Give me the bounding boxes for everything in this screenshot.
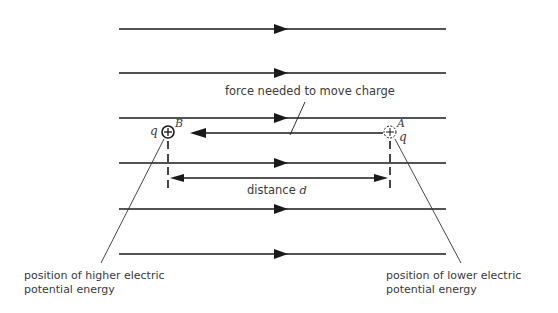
electric-field-diagram: [0, 0, 558, 313]
point-a-label: A: [397, 117, 405, 131]
lower-leader-line: [395, 139, 461, 263]
force-arrow: [190, 102, 383, 138]
point-b-label: B: [175, 117, 183, 131]
charge-b-label: q: [150, 124, 158, 138]
lower-pe-line1: position of lower electric: [386, 269, 521, 283]
distance-text: distance: [247, 183, 296, 197]
distance-label: distance d: [247, 183, 307, 197]
force-label: force needed to move charge: [225, 84, 395, 98]
field-line: [119, 24, 446, 34]
charge-a: [384, 126, 396, 138]
higher-leader-line: [101, 139, 164, 263]
field-line: [119, 68, 446, 78]
field-line: [119, 249, 446, 259]
higher-pe-label: position of higher electric potential en…: [24, 269, 165, 297]
distance-arrow: [170, 174, 388, 182]
charge-a-label: q: [399, 130, 407, 144]
higher-pe-line1: position of higher electric: [24, 269, 165, 283]
distance-variable: d: [299, 183, 306, 197]
lower-pe-label: position of lower electric potential ene…: [386, 269, 521, 297]
lower-pe-line2: potential energy: [386, 283, 521, 297]
charge-b: [162, 126, 174, 138]
higher-pe-line2: potential energy: [24, 283, 165, 297]
field-line: [119, 204, 446, 214]
